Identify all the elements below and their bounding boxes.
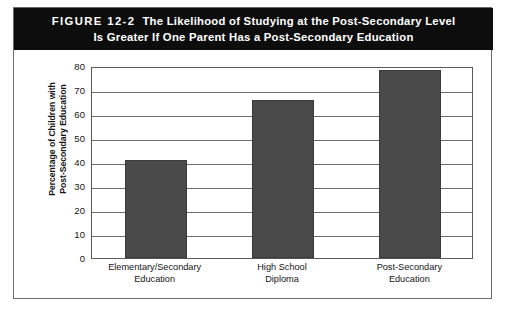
- y-axis-tick-label: 70: [59, 86, 85, 96]
- x-axis-tick-labels: Elementary/SecondaryEducationHigh School…: [91, 262, 473, 296]
- x-axis-tick-label: Post-SecondaryEducation: [346, 262, 473, 285]
- x-axis-tick-label: Elementary/SecondaryEducation: [91, 262, 218, 285]
- figure-container: FIGURE 12-2 The Likelihood of Studying a…: [13, 7, 492, 299]
- x-axis-tick-label-line: Diploma: [218, 274, 345, 286]
- x-axis-tick-label-line: Education: [91, 274, 218, 286]
- x-axis-tick-label: High SchoolDiploma: [218, 262, 345, 285]
- bar: [379, 70, 441, 258]
- figure-title-line-1: The Likelihood of Studying at the Post-S…: [142, 13, 455, 29]
- x-axis-tick-label-line: Post-Secondary: [346, 262, 473, 274]
- y-axis-tick-label: 30: [59, 182, 85, 192]
- figure-title-line-1-row: FIGURE 12-2 The Likelihood of Studying a…: [52, 13, 456, 29]
- y-axis-tick-label: 0: [59, 254, 85, 264]
- x-axis-tick-label-line: Education: [346, 274, 473, 286]
- y-axis-title-line-1: Percentage of Children with: [47, 82, 59, 196]
- bar: [252, 100, 314, 258]
- y-axis-tick-label: 10: [59, 230, 85, 240]
- bar: [125, 160, 187, 258]
- plot-area: [91, 67, 473, 259]
- y-axis-tick-label: 80: [59, 62, 85, 72]
- chart-body: Percentage of Children with Post-Seconda…: [14, 50, 493, 298]
- y-axis-tick-labels: 01020304050607080: [59, 67, 85, 259]
- figure-title-line-2: Is Greater If One Parent Has a Post-Seco…: [93, 29, 413, 45]
- x-axis-tick-label-line: High School: [218, 262, 345, 274]
- y-axis-tick-label: 60: [59, 110, 85, 120]
- y-axis-tick-label: 50: [59, 134, 85, 144]
- figure-title-banner: FIGURE 12-2 The Likelihood of Studying a…: [14, 8, 493, 50]
- x-axis-tick-label-line: Elementary/Secondary: [91, 262, 218, 274]
- y-axis-tick-label: 20: [59, 206, 85, 216]
- figure-number-label: FIGURE 12-2: [52, 13, 136, 29]
- y-axis-tick-label: 40: [59, 158, 85, 168]
